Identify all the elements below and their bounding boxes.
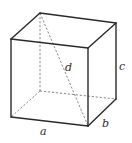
label-c: c: [119, 60, 125, 73]
label-d: d: [65, 61, 72, 74]
edge-top-back: [40, 13, 116, 23]
box-diagram: d c a b: [0, 0, 132, 143]
label-b: b: [102, 117, 109, 130]
edge-front-top: [11, 39, 88, 48]
hidden-edge-back-bottom: [40, 91, 116, 99]
edge-top-left: [11, 13, 40, 39]
label-a: a: [40, 125, 47, 138]
hidden-edge-left-bottom: [11, 91, 40, 117]
edge-front-bottom: [11, 117, 88, 126]
space-diagonal-d: [40, 13, 88, 126]
edge-top-right: [88, 23, 116, 48]
